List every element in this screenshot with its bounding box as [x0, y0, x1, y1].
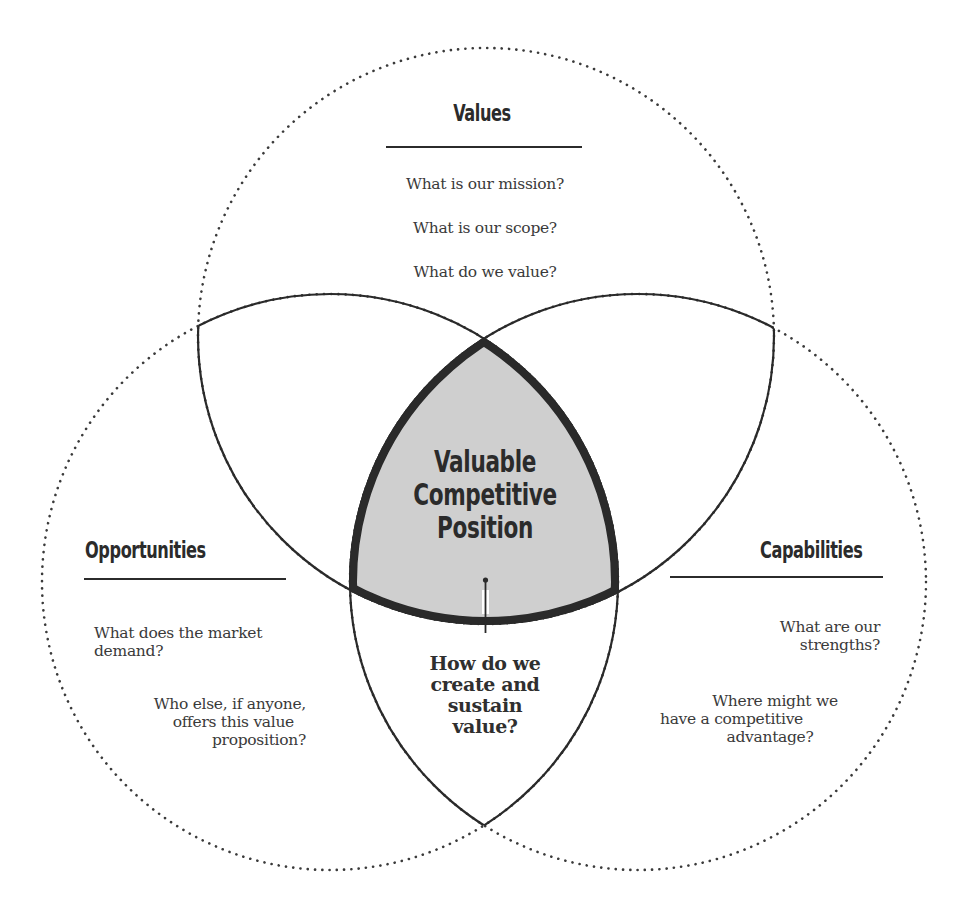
venn-diagram: Values What is our mission? What is our … — [0, 0, 960, 909]
pointer-dot — [483, 577, 488, 582]
center-title-line: Valuable — [413, 445, 557, 478]
values-question-scope: What is our scope? — [360, 219, 610, 237]
question-line: Who else, if anyone, — [100, 695, 306, 713]
center-question-line: How do we — [395, 653, 575, 674]
question-line: demand? — [94, 642, 262, 660]
center-question: How do we create and sustain value? — [395, 653, 575, 737]
center-title-line: Position — [413, 511, 557, 544]
center-question-line: sustain — [395, 695, 575, 716]
question-line: offers this value — [100, 713, 306, 731]
opportunities-underline — [84, 578, 286, 580]
question-line: What are our — [680, 618, 880, 636]
question-line: strengths? — [680, 636, 880, 654]
values-question-value: What do we value? — [360, 263, 610, 281]
question-line: proposition? — [100, 731, 306, 749]
capabilities-question-strengths: What are our strengths? — [680, 618, 880, 654]
center-question-line: value? — [395, 716, 575, 737]
question-line: have a competitive — [652, 710, 852, 728]
values-heading: Values — [427, 100, 536, 126]
question-line: What does the market — [94, 624, 262, 642]
capabilities-underline — [670, 576, 883, 578]
question-line: advantage? — [652, 728, 852, 746]
center-title-line: Competitive — [413, 478, 557, 511]
capabilities-heading: Capabilities — [760, 537, 862, 563]
center-title: Valuable Competitive Position — [413, 445, 557, 544]
opportunities-heading: Opportunities — [85, 537, 206, 563]
values-question-mission: What is our mission? — [360, 175, 610, 193]
values-underline — [386, 146, 582, 148]
opportunities-question-competitors: Who else, if anyone, offers this value p… — [100, 695, 306, 749]
capabilities-question-advantage: Where might we have a competitive advant… — [652, 692, 852, 746]
opportunities-question-demand: What does the market demand? — [94, 624, 262, 660]
question-line: Where might we — [652, 692, 852, 710]
center-question-line: create and — [395, 674, 575, 695]
